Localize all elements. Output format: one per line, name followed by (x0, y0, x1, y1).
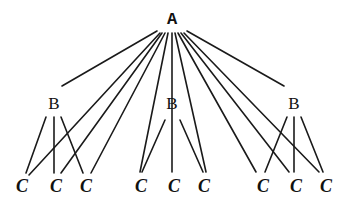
node-c-6: C (198, 176, 211, 196)
node-c-7: C (257, 176, 270, 196)
node-c-9: C (320, 176, 333, 196)
node-c-2: C (50, 176, 63, 196)
node-b-right: B (288, 94, 299, 113)
tree-diagram: A B B B C C C C C C C C C (0, 0, 348, 205)
node-b-middle: B (166, 94, 177, 113)
edge-b-to-c-1 (26, 117, 46, 173)
node-b-left: B (48, 94, 59, 113)
node-root-a: A (167, 10, 178, 29)
edge-b-to-c-3 (61, 117, 83, 173)
edge-a-to-c-2 (61, 33, 162, 173)
node-c-5: C (168, 176, 181, 196)
node-c-8: C (290, 176, 303, 196)
node-c-3: C (80, 176, 93, 196)
node-c-1: C (16, 176, 29, 196)
node-c-4: C (135, 176, 148, 196)
